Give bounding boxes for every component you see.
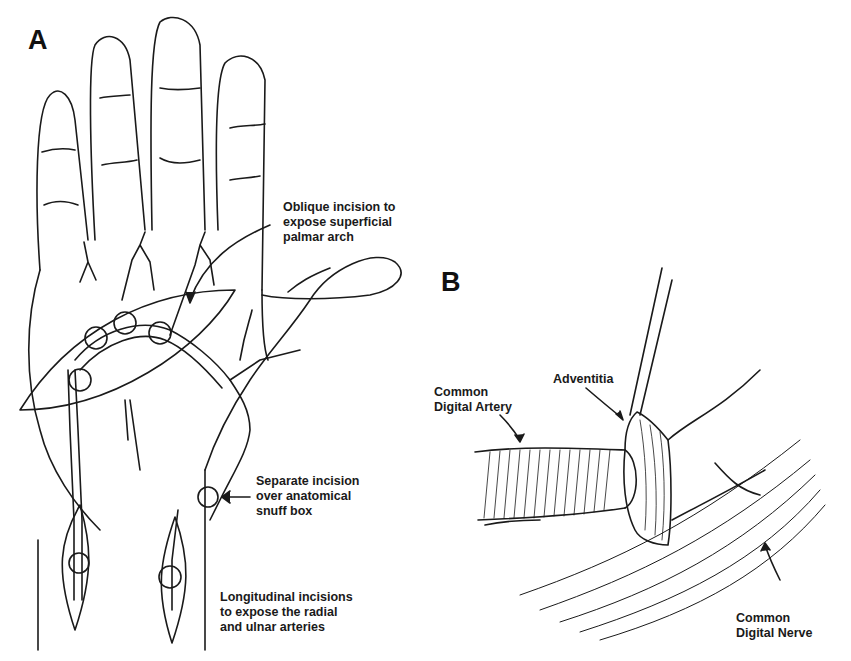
- oblique-incision-label: Oblique incision to expose superficial p…: [283, 200, 396, 245]
- longitudinal-incision-label: Longitudinal incisions to expose the rad…: [220, 590, 353, 635]
- figure-illustration: [0, 0, 851, 661]
- panel-a-letter: A: [28, 25, 48, 56]
- common-digital-nerve-label: Common Digital Nerve: [736, 611, 812, 641]
- hand-drawing: [20, 17, 401, 650]
- adventitia-label: Adventitia: [553, 372, 613, 387]
- vessel-drawing: [475, 268, 825, 640]
- common-digital-artery-label: Common Digital Artery: [434, 385, 512, 415]
- panel-b-letter: B: [441, 267, 461, 298]
- snuff-box-incision-label: Separate incision over anatomical snuff …: [256, 474, 360, 519]
